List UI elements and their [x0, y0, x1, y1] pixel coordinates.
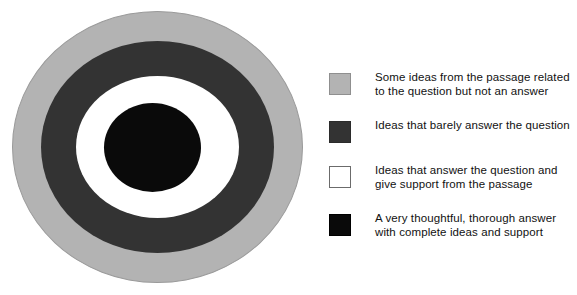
legend-label: Some ideas from the passage related to t…	[375, 70, 570, 98]
legend-label: Ideas that answer the question and give …	[375, 163, 557, 191]
legend: Some ideas from the passage related to t…	[329, 70, 574, 239]
legend-item: A very thoughtful, thorough answer with …	[329, 211, 574, 239]
legend-swatch-light-gray	[329, 73, 351, 95]
legend-item: Ideas that barely answer the question	[329, 118, 574, 143]
ring-center-black	[104, 103, 201, 192]
concentric-rubric-target	[0, 0, 320, 295]
legend-swatch-white	[329, 166, 351, 188]
legend-item: Ideas that answer the question and give …	[329, 163, 574, 191]
legend-label: A very thoughtful, thorough answer with …	[375, 211, 556, 239]
diagram-canvas: Some ideas from the passage related to t…	[0, 0, 577, 295]
legend-label: Ideas that barely answer the question	[375, 118, 570, 132]
legend-item: Some ideas from the passage related to t…	[329, 70, 574, 98]
legend-swatch-dark-gray	[329, 121, 351, 143]
legend-swatch-black	[329, 214, 351, 236]
